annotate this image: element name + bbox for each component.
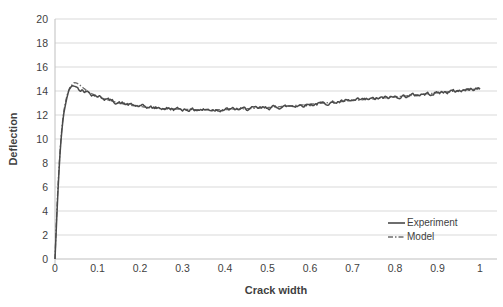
y-tick-label: 4 <box>42 205 48 217</box>
x-tick-label: 0.5 <box>260 262 275 274</box>
x-axis-title: Crack width <box>245 284 307 296</box>
y-tick-label: 0 <box>42 253 48 265</box>
plot-canvas: 0246810121416182000.10.20.30.40.50.60.70… <box>0 0 503 307</box>
model-line-marker-icon <box>388 232 405 242</box>
y-tick-label: 8 <box>42 157 48 169</box>
y-tick-label: 20 <box>36 13 48 25</box>
legend: Experiment Model <box>388 216 458 243</box>
y-tick-label: 16 <box>36 61 48 73</box>
y-tick-label: 18 <box>36 37 48 49</box>
x-tick-label: 0.4 <box>218 262 233 274</box>
x-tick-label: 0.7 <box>345 262 360 274</box>
legend-item-experiment: Experiment <box>388 216 458 229</box>
y-tick-label: 14 <box>36 85 48 97</box>
x-tick-label: 0.9 <box>430 262 445 274</box>
x-tick-label: 0.2 <box>133 262 148 274</box>
y-axis-title: Deflection <box>7 112 19 165</box>
legend-item-model: Model <box>388 230 458 243</box>
y-tick-label: 10 <box>36 133 48 145</box>
y-tick-label: 12 <box>36 109 48 121</box>
x-tick-label: 0.1 <box>90 262 105 274</box>
line-chart: 0246810121416182000.10.20.30.40.50.60.70… <box>0 0 503 307</box>
x-tick-label: 0 <box>52 262 58 274</box>
y-tick-label: 2 <box>42 229 48 241</box>
x-tick-label: 1 <box>477 262 483 274</box>
legend-label-experiment: Experiment <box>407 216 458 229</box>
x-tick-label: 0.3 <box>175 262 190 274</box>
y-tick-label: 6 <box>42 181 48 193</box>
x-tick-label: 0.8 <box>388 262 403 274</box>
legend-label-model: Model <box>407 230 434 243</box>
experiment-line-marker-icon <box>388 218 405 228</box>
x-tick-label: 0.6 <box>303 262 318 274</box>
